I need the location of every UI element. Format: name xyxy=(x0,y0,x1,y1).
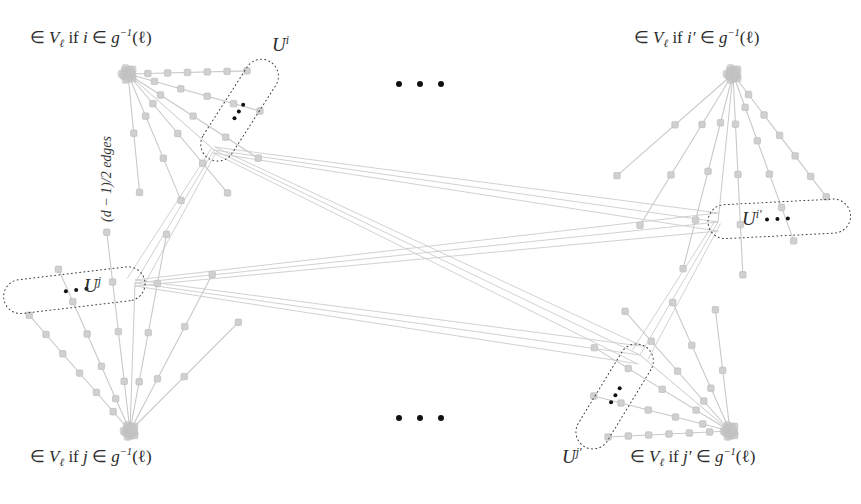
u-superscript: j′ xyxy=(576,446,582,459)
gadget-ellipsis-dot xyxy=(765,217,769,221)
gadget-terminal-node xyxy=(136,189,142,195)
gadget-node xyxy=(689,342,695,348)
set-index: ℓ xyxy=(663,37,668,49)
cross-edge xyxy=(214,147,719,213)
u-base: U xyxy=(742,208,756,229)
corner-cluster-node xyxy=(120,422,138,441)
if-keyword: if xyxy=(668,447,678,466)
function-arg: (ℓ) xyxy=(740,28,759,47)
gadget-node xyxy=(735,171,741,177)
set-v: V xyxy=(653,28,663,47)
gadget-node xyxy=(792,153,798,159)
gadget-node xyxy=(154,376,160,382)
gadget-terminal-node xyxy=(591,393,597,399)
cross-edge xyxy=(143,152,217,288)
gadget-node xyxy=(754,138,760,144)
gadget-terminal-node xyxy=(55,266,61,272)
gadget-node xyxy=(115,328,121,334)
gadget-node xyxy=(745,91,751,97)
gadget-node xyxy=(151,78,157,84)
cross-edge xyxy=(214,153,717,231)
vertex-index: j′ xyxy=(683,447,691,466)
gadget-outlines-layer xyxy=(2,53,852,455)
cross-edge xyxy=(135,150,214,283)
if-keyword: if xyxy=(68,28,78,47)
gadget-terminal-node xyxy=(255,155,261,161)
gadget-node xyxy=(706,429,712,435)
element-of-icon-2: ∈ xyxy=(92,447,107,466)
label-u-i: Ui xyxy=(272,35,289,54)
cross-edge xyxy=(135,231,719,286)
gadget-node xyxy=(761,112,767,118)
gadget-node xyxy=(181,373,187,379)
gadget-node xyxy=(157,92,163,98)
gadget-node xyxy=(701,398,707,404)
gadget-terminal-node xyxy=(740,272,746,278)
gadget-Uj xyxy=(591,299,738,440)
gadget-node xyxy=(720,367,726,373)
middle-ellipsis-dot xyxy=(438,415,444,421)
gadget-node xyxy=(666,431,672,437)
gadget-ellipsis-dot xyxy=(775,217,779,221)
cross-edge xyxy=(135,280,641,346)
element-of-icon: ∈ xyxy=(30,447,45,466)
element-of-icon-2: ∈ xyxy=(696,447,711,466)
gadget-node xyxy=(184,69,190,75)
gadget-node xyxy=(142,113,148,119)
gadget-node xyxy=(164,70,170,76)
gadget-terminal-node xyxy=(104,229,110,235)
gadget-node xyxy=(776,132,782,138)
label-u-j-prime: Uj′ xyxy=(562,447,582,466)
gadget-node xyxy=(110,408,116,414)
gadget-node xyxy=(160,155,166,161)
gadget-terminal-node xyxy=(622,308,628,314)
cross-edge xyxy=(215,147,644,347)
bottom-right-condition-label: ∈Vℓ if j′ ∈ g−1(ℓ) xyxy=(630,447,755,468)
gadget-terminal-node xyxy=(235,319,241,325)
gadget-node xyxy=(705,168,711,174)
gadget-node xyxy=(113,395,119,401)
gadget-node xyxy=(708,385,714,391)
u-base: U xyxy=(272,34,286,55)
gadget-node xyxy=(645,407,651,413)
gadget-ellipsis-dot xyxy=(618,386,622,390)
gadget-terminal-node xyxy=(178,197,184,203)
gadget-path-edge xyxy=(130,274,212,431)
gadget-node xyxy=(150,101,156,107)
if-keyword: if xyxy=(672,28,682,47)
gadget-node xyxy=(742,104,748,110)
gadget-Uj xyxy=(26,229,242,440)
gadget-node xyxy=(154,280,160,286)
middle-ellipsis-dot xyxy=(438,81,444,87)
gadget-node xyxy=(93,389,99,395)
cluster-piece xyxy=(730,426,737,433)
gadget-terminal-node xyxy=(224,190,230,196)
gadget-node xyxy=(199,160,205,166)
set-v: V xyxy=(49,447,59,466)
cross-edge xyxy=(213,153,636,363)
middle-ellipsis-dot xyxy=(417,415,423,421)
gadget-ellipsis-dot xyxy=(609,400,613,404)
gadget-terminal-node xyxy=(257,108,263,114)
inverse-exponent: −1 xyxy=(723,446,735,457)
gadget-ellipsis-dot xyxy=(64,289,68,293)
vertex-index: i xyxy=(83,28,88,47)
vertex-index: i′ xyxy=(687,28,695,47)
gadget-terminal-node xyxy=(823,194,829,200)
gadget-node xyxy=(60,351,66,357)
gadget-node xyxy=(732,121,738,127)
gadget-node xyxy=(222,134,228,140)
gadget-terminal-node xyxy=(791,238,797,244)
gadget-Ui xyxy=(118,65,263,204)
gadget-node xyxy=(204,69,210,75)
gadget-node xyxy=(717,119,723,125)
element-of-icon-2: ∈ xyxy=(700,28,715,47)
middle-ellipsis-dot xyxy=(396,81,402,87)
gadget-path-edge xyxy=(640,74,733,225)
figure-canvas: ∈Vℓ if i ∈ g−1(ℓ) ∈Vℓ if i′ ∈ g−1(ℓ) ∈Vℓ… xyxy=(0,0,861,504)
gadget-node xyxy=(178,86,184,92)
gadget-node xyxy=(224,68,230,74)
gadget-node xyxy=(70,298,76,304)
element-of-icon: ∈ xyxy=(634,28,649,47)
set-v: V xyxy=(49,28,59,47)
